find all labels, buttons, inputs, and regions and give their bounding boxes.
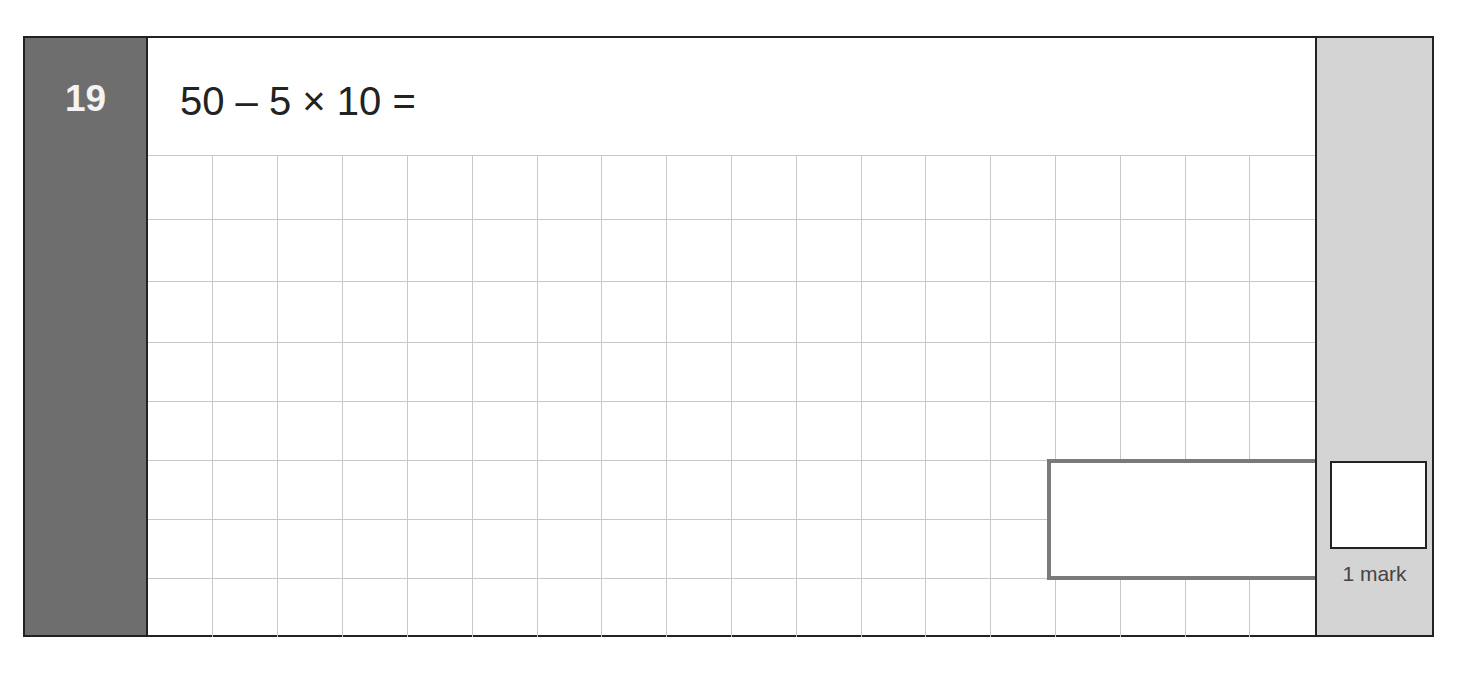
question-content: 50 – 5 × 10 = — [148, 38, 1315, 635]
mark-label: 1 mark — [1317, 562, 1432, 586]
question-number-column: 19 — [25, 38, 148, 635]
mark-box[interactable] — [1330, 461, 1427, 549]
question-text: 50 – 5 × 10 = — [180, 78, 416, 124]
question-number: 19 — [25, 78, 146, 120]
question-frame: 19 50 – 5 × 10 = — [23, 36, 1434, 637]
mark-column: 1 mark — [1315, 38, 1432, 635]
